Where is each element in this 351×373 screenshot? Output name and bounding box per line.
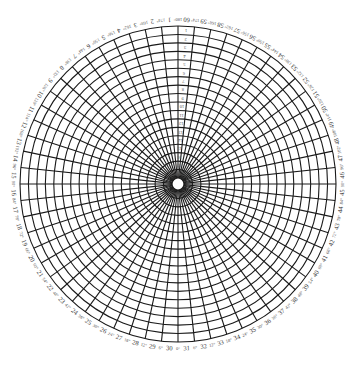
ring-number-label: 2 [184, 37, 186, 42]
degree-label: 78° [336, 214, 342, 221]
spoke-number-label: 46 [338, 171, 345, 179]
spoke-number-label: 32 [200, 342, 208, 350]
ring-number-label: 10 [179, 104, 184, 109]
degree-label: 30° [92, 323, 100, 331]
spoke-number-label: 30 [166, 344, 173, 351]
ring-number-label: 14 [177, 138, 182, 143]
polar-grid-diagram: 1234567891011121314151617181920212223242… [0, 0, 351, 373]
degree-label: 162° [224, 24, 234, 31]
spoke-number-label: 3 [133, 22, 138, 30]
ring-number-label: 3 [183, 45, 186, 50]
ring-number-label: 13 [178, 130, 183, 135]
spoke-number-label: 1 [168, 17, 172, 24]
degree-label: 168° [139, 20, 149, 27]
degree-label: 150° [91, 37, 101, 46]
spoke-number-label: 41 [320, 254, 329, 263]
spoke-number-label: 44 [336, 205, 344, 213]
ring-number-label: 15 [177, 146, 182, 151]
degree-label: 102° [336, 145, 343, 155]
spoke-number-label: 31 [183, 344, 190, 351]
degree-label: 12° [209, 342, 216, 348]
spoke-number-label: 17 [12, 206, 20, 214]
degree-label: 90° [11, 181, 16, 188]
degree-label: 18° [225, 337, 233, 344]
degree-label: 30° [256, 323, 264, 331]
degree-label: 12° [140, 342, 147, 348]
ring-number-label: 6 [182, 71, 185, 76]
spoke-number-label: 28 [132, 338, 140, 346]
degree-label: 6° [159, 345, 164, 350]
spoke-number-label: 60 [183, 17, 190, 24]
degree-label: 162° [122, 24, 132, 31]
spoke-number-label: 59 [200, 18, 208, 26]
ring-number-label: 11 [179, 113, 183, 118]
ring-number-label: 12 [179, 121, 184, 126]
degree-label: 48° [296, 290, 304, 298]
degree-label: 144° [76, 46, 86, 55]
degree-label: 72° [331, 231, 338, 239]
degree-label: 24° [107, 331, 115, 338]
spoke-number-label: 19 [20, 238, 29, 247]
ring-number-label: 8 [181, 87, 184, 92]
degree-label: 42° [284, 302, 292, 310]
degree-label: 174° [156, 17, 165, 23]
ring-number-label: 16 [176, 155, 181, 160]
ring-number-label: 5 [182, 62, 185, 67]
degree-label: 138° [63, 57, 73, 67]
degree-label: 18° [123, 337, 131, 344]
degree-label: 0° [176, 346, 180, 351]
degree-label: 84° [12, 198, 18, 205]
degree-label: 108° [331, 128, 338, 138]
degree-label: 36° [77, 313, 85, 321]
ring-number-label: 9 [181, 96, 184, 101]
spoke-number-label: 35 [248, 326, 257, 335]
spoke-number-label: 43 [332, 222, 340, 230]
degree-label: 78° [14, 215, 20, 222]
spoke-number-label: 15 [11, 172, 18, 179]
degree-label: 96° [12, 163, 18, 170]
degree-label: 42° [64, 302, 72, 310]
spoke-number-label: 18 [15, 222, 23, 230]
ring-number-label: 4 [183, 54, 186, 59]
ring-number-label: 1 [185, 28, 187, 33]
degree-label: 180° [174, 17, 183, 22]
degree-label: 36° [271, 313, 279, 321]
degree-label: 132° [51, 69, 61, 79]
spoke-number-label: 29 [149, 342, 157, 350]
degree-label: 108° [18, 128, 25, 138]
spoke-number-label: 5 [101, 34, 107, 42]
degree-label: 66° [24, 247, 31, 255]
degree-label: 60° [317, 262, 325, 270]
spoke-number-label: 14 [12, 155, 20, 163]
degree-label: 174° [190, 17, 199, 23]
spoke-number-label: 42 [327, 238, 336, 247]
ring-number-label: 18 [176, 172, 181, 177]
spoke-number-label: 45 [338, 189, 345, 196]
degree-label: 90° [340, 181, 345, 188]
ring-number-label: 17 [176, 163, 181, 168]
center-hub [172, 178, 184, 190]
degree-label: 84° [339, 198, 345, 205]
degree-label: 48° [52, 290, 60, 298]
degree-label: 156° [106, 30, 116, 38]
spoke-number-label: 20 [27, 254, 36, 263]
spoke-number-label: 33 [216, 338, 224, 346]
degree-label: 66° [325, 247, 332, 255]
degree-label: 6° [193, 345, 198, 350]
degree-label: 102° [14, 145, 21, 155]
degree-label: 60° [32, 262, 40, 270]
ring-number-label: 7 [182, 79, 185, 84]
degree-label: 114° [24, 112, 32, 122]
spoke-number-label: 2 [150, 18, 154, 25]
degree-label: 54° [307, 277, 315, 285]
spoke-number-label: 16 [11, 189, 18, 197]
degree-label: 96° [339, 163, 345, 170]
degree-label: 54° [41, 277, 49, 285]
degree-label: 72° [18, 231, 25, 239]
degree-label: 24° [241, 331, 249, 338]
degree-label: 168° [207, 20, 217, 27]
